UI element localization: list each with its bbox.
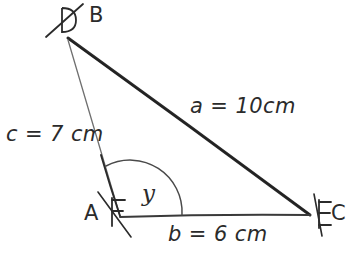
angle-label-y: y xyxy=(142,182,155,205)
side-b-label: b = 6 cm xyxy=(168,224,268,245)
diagram-canvas: a = 10cm c = 7 cm b = 6 cm B A C y xyxy=(0,0,352,264)
side-c-label: c = 7 cm xyxy=(6,124,104,145)
side-a-line-overstroke xyxy=(70,40,309,214)
side-b-line xyxy=(120,215,310,217)
tick-mark-c xyxy=(314,194,331,236)
vertex-label-c: C xyxy=(331,203,346,224)
side-a-label: a = 10cm xyxy=(190,96,296,117)
vertex-label-a: A xyxy=(84,203,98,224)
tick-mark-b xyxy=(46,4,83,37)
vertex-label-b: B xyxy=(89,5,103,26)
